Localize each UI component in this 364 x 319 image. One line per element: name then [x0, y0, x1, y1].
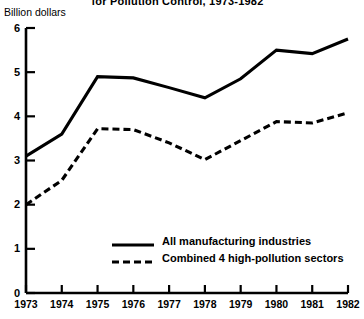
series-line-combined-4-high-pollution-sectors	[26, 113, 348, 205]
x-axis-tick-label: 1979	[221, 299, 261, 310]
x-axis-tick-label: 1981	[292, 299, 332, 310]
legend-solid-line-icon	[112, 236, 154, 246]
x-axis-tick-label: 1974	[42, 299, 82, 310]
y-axis-tick-label: 2	[2, 199, 20, 210]
y-axis-tick-label: 0	[2, 288, 20, 299]
x-axis-tick-label: 1980	[256, 299, 296, 310]
x-axis-tick-label: 1975	[78, 299, 118, 310]
legend-label-all-manufacturing-industries: All manufacturing industries	[162, 235, 311, 247]
x-axis-tick-label: 1982	[328, 299, 364, 310]
chart-legend: All manufacturing industries Combined 4 …	[112, 232, 352, 266]
x-axis-tick-label: 1976	[113, 299, 153, 310]
legend-label-combined-4-high-pollution-sectors: Combined 4 high-pollution sectors	[162, 252, 344, 264]
x-axis-tick-label: 1978	[185, 299, 225, 310]
y-axis-ticks	[26, 28, 35, 293]
series-line-all-manufacturing-industries	[26, 39, 348, 156]
y-axis-tick-label: 1	[2, 243, 20, 254]
x-axis-tick-label: 1973	[6, 299, 46, 310]
y-axis-tick-label: 5	[2, 67, 20, 78]
y-axis-tick-label: 3	[2, 155, 20, 166]
y-axis-tick-label: 4	[2, 111, 20, 122]
data-series-group	[26, 39, 348, 205]
legend-item-combined-4-high-pollution-sectors: Combined 4 high-pollution sectors	[112, 249, 352, 266]
legend-dashed-line-icon	[112, 253, 154, 263]
y-axis-tick-label: 6	[2, 23, 20, 34]
x-axis-tick-label: 1977	[149, 299, 189, 310]
legend-item-all-manufacturing-industries: All manufacturing industries	[112, 232, 352, 249]
